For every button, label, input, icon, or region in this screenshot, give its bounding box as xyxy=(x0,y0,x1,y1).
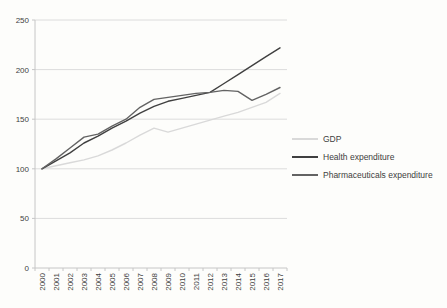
x-tick-label: 2017 xyxy=(276,272,285,290)
legend-label-gdp: GDP xyxy=(323,135,341,144)
x-tick-label: 2002 xyxy=(66,272,75,290)
y-tick-label: 100 xyxy=(16,165,30,174)
chart-figure: 0501001502002502000200120022003200420052… xyxy=(0,0,447,308)
legend-item-gdp: GDP xyxy=(292,130,433,148)
series-line-pharmaceuticals-expenditure xyxy=(42,88,280,169)
x-tick-label: 2010 xyxy=(178,272,187,290)
pharmaceuticals-expenditure-line-swatch xyxy=(292,174,318,176)
y-tick-label: 150 xyxy=(16,115,30,124)
gdp-line-swatch xyxy=(292,138,318,140)
x-tick-label: 2001 xyxy=(52,272,61,290)
x-tick-label: 2013 xyxy=(220,272,229,290)
x-tick-label: 2011 xyxy=(192,272,201,290)
x-tick-label: 2016 xyxy=(262,272,271,290)
x-tick-label: 2008 xyxy=(150,272,159,290)
legend-item-pharmaceuticals-expenditure: Pharmaceuticals expenditure xyxy=(292,166,433,184)
x-tick-label: 2006 xyxy=(122,272,131,290)
legend-label-pharmaceuticals-expenditure: Pharmaceuticals expenditure xyxy=(323,171,433,180)
x-tick-label: 2009 xyxy=(164,272,173,290)
chart-legend: GDP Health expenditure Pharmaceuticals e… xyxy=(292,130,433,184)
x-tick-label: 2014 xyxy=(234,272,243,290)
y-tick-label: 200 xyxy=(16,66,30,75)
series-line-gdp xyxy=(42,93,280,168)
x-tick-label: 2004 xyxy=(94,272,103,290)
series-line-health-expenditure xyxy=(42,48,280,169)
x-tick-label: 2007 xyxy=(136,272,145,290)
y-tick-label: 250 xyxy=(16,16,30,25)
y-tick-label: 0 xyxy=(25,264,30,273)
x-tick-label: 2005 xyxy=(108,272,117,290)
health-expenditure-line-swatch xyxy=(292,156,318,158)
x-tick-label: 2012 xyxy=(206,272,215,290)
x-tick-label: 2000 xyxy=(38,272,47,290)
y-tick-label: 50 xyxy=(20,214,29,223)
legend-label-health-expenditure: Health expenditure xyxy=(323,153,394,162)
legend-item-health-expenditure: Health expenditure xyxy=(292,148,433,166)
x-tick-label: 2015 xyxy=(248,272,257,290)
x-tick-label: 2003 xyxy=(80,272,89,290)
